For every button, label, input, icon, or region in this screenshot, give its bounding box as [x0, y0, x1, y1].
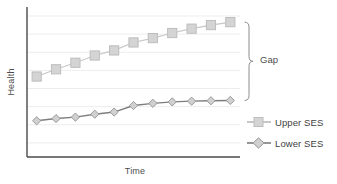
legend-diamond-marker-icon [246, 137, 272, 149]
legend-square-marker-icon [246, 116, 272, 128]
data-point-square [129, 38, 138, 47]
brace-path [245, 22, 253, 100]
legend-label-upper-ses: Upper SES [275, 117, 323, 128]
data-point-square [71, 58, 80, 67]
data-point-square [32, 72, 41, 81]
data-point-diamond [226, 96, 234, 104]
data-point-square [148, 34, 157, 43]
data-point-diamond [207, 97, 215, 105]
data-point-diamond [33, 117, 41, 125]
data-point-square [187, 24, 196, 33]
data-point-square [90, 51, 99, 60]
data-point-diamond [110, 108, 118, 116]
data-point-diamond [168, 98, 176, 106]
data-point-square [51, 65, 60, 74]
legend-item-lower-ses[interactable]: Lower SES [246, 137, 323, 149]
data-point-diamond [71, 113, 79, 121]
data-point-square [226, 18, 235, 27]
data-point-square [206, 20, 215, 29]
x-axis-label: Time [107, 166, 163, 176]
gap-annotation-label: Gap [260, 54, 278, 65]
data-point-diamond [187, 97, 195, 105]
data-point-diamond [129, 101, 137, 109]
data-point-square [168, 28, 177, 37]
data-point-diamond [52, 114, 60, 122]
legend-label-lower-ses: Lower SES [275, 138, 323, 149]
series-line [37, 22, 231, 76]
chart-figure: Health Time Gap Upper SES Lower SES [0, 0, 337, 184]
data-point-diamond [91, 110, 99, 118]
gap-brace-icon [245, 22, 253, 100]
legend-item-upper-ses[interactable]: Upper SES [246, 116, 323, 128]
chart-legend: Upper SES Lower SES [246, 116, 323, 149]
gridlines [27, 16, 240, 143]
chart-canvas [0, 0, 337, 184]
y-axis-label: Health [6, 59, 16, 105]
data-point-square [110, 46, 119, 55]
